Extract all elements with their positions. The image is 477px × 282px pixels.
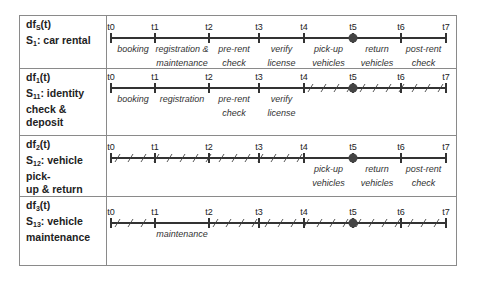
activity-label: vehicles xyxy=(312,58,345,68)
time-label-t7: t7 xyxy=(442,207,450,217)
activity-label: vehicles xyxy=(361,178,394,188)
time-label-t2: t2 xyxy=(205,142,213,152)
time-label-t3: t3 xyxy=(255,142,263,152)
activity-label: vehicles xyxy=(312,178,345,188)
time-label-t7: t7 xyxy=(442,142,450,152)
activity-label: pick-up xyxy=(313,44,343,54)
activity-label: maintenance xyxy=(156,58,208,68)
time-label-t6: t6 xyxy=(397,207,405,217)
activity-label: booking xyxy=(117,94,149,104)
time-label-t3: t3 xyxy=(255,207,263,217)
milestone-dot xyxy=(349,154,358,163)
milestone-dot xyxy=(349,84,358,93)
activity-label: return xyxy=(365,164,389,174)
activity-label: maintenance xyxy=(156,229,208,239)
activity-label: pre-rent xyxy=(217,44,250,54)
time-label-t1: t1 xyxy=(151,142,159,152)
time-label-t4: t4 xyxy=(300,142,308,152)
time-label-t3: t3 xyxy=(255,22,263,32)
time-label-t4: t4 xyxy=(300,72,308,82)
time-label-t0: t0 xyxy=(107,72,115,82)
time-label-t2: t2 xyxy=(205,22,213,32)
milestone-dot xyxy=(349,34,358,43)
time-label-t1: t1 xyxy=(151,72,159,82)
time-label-t0: t0 xyxy=(107,207,115,217)
time-label-t2: t2 xyxy=(205,207,213,217)
activity-label: pick-up xyxy=(313,164,343,174)
activity-label: registration xyxy=(160,94,205,104)
activity-label: post-rent xyxy=(405,164,442,174)
time-label-t6: t6 xyxy=(397,72,405,82)
time-label-t5: t5 xyxy=(349,72,357,82)
timelines: t0t1t2t3t4t5t6t7bookingregistration &mai… xyxy=(0,0,477,282)
activity-label: check xyxy=(412,178,436,188)
milestone-dot xyxy=(349,219,358,228)
time-label-t7: t7 xyxy=(442,22,450,32)
time-label-t5: t5 xyxy=(349,142,357,152)
activity-label: pre-rent xyxy=(217,94,250,104)
activity-label: registration & xyxy=(155,44,208,54)
time-label-t5: t5 xyxy=(349,207,357,217)
time-label-t0: t0 xyxy=(107,142,115,152)
activity-label: license xyxy=(267,58,295,68)
activity-label: booking xyxy=(117,44,149,54)
time-label-t1: t1 xyxy=(151,207,159,217)
activity-label: check xyxy=(412,58,436,68)
time-label-t0: t0 xyxy=(107,22,115,32)
time-label-t4: t4 xyxy=(300,207,308,217)
activity-label: check xyxy=(222,108,246,118)
time-label-t6: t6 xyxy=(397,142,405,152)
activity-label: verify xyxy=(271,94,293,104)
time-label-t5: t5 xyxy=(349,22,357,32)
time-label-t2: t2 xyxy=(205,72,213,82)
time-label-t7: t7 xyxy=(442,72,450,82)
time-label-t3: t3 xyxy=(255,72,263,82)
activity-label: verify xyxy=(271,44,293,54)
activity-label: return xyxy=(365,44,389,54)
time-label-t4: t4 xyxy=(300,22,308,32)
time-label-t6: t6 xyxy=(397,22,405,32)
time-label-t1: t1 xyxy=(151,22,159,32)
activity-label: check xyxy=(222,58,246,68)
activity-label: vehicles xyxy=(361,58,394,68)
activity-label: license xyxy=(267,108,295,118)
activity-label: post-rent xyxy=(405,44,442,54)
